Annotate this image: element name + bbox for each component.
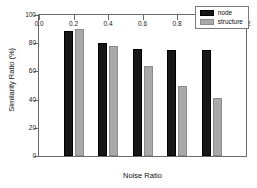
legend-label-structure: structure — [218, 19, 243, 26]
bar-structure-0.2 — [75, 29, 84, 156]
x-tick-label: 0.4 — [103, 21, 112, 28]
y-tick-label: 60 — [29, 68, 36, 75]
bar-structure-0.8 — [178, 86, 187, 157]
x-axis-title: Noise Ratio — [38, 172, 247, 180]
bar-structure-0.6 — [144, 66, 153, 156]
bar-node-0.4 — [98, 43, 107, 156]
x-tick-label: 0.2 — [69, 21, 78, 28]
bar-node-0.6 — [133, 49, 142, 156]
legend: node structure — [195, 6, 249, 29]
x-tick-label: 0.0 — [34, 21, 43, 28]
bar-node-0.2 — [64, 31, 73, 156]
plot-area: 0204060801000.00.20.40.60.81.01.2 — [38, 14, 247, 157]
bar-chart: 0204060801000.00.20.40.60.81.01.2 Simila… — [0, 0, 257, 188]
node-swatch-icon — [200, 10, 214, 16]
structure-swatch-icon — [200, 19, 214, 25]
bar-node-0.8 — [167, 50, 176, 156]
x-tick-label: 0.6 — [138, 21, 147, 28]
y-tick-label: 20 — [29, 125, 36, 132]
legend-label-node: node — [218, 10, 232, 17]
y-tick-label: 40 — [29, 96, 36, 103]
legend-item-structure: structure — [200, 19, 243, 26]
y-tick-label: 0 — [32, 153, 36, 160]
y-tick-label: 80 — [29, 40, 36, 47]
x-tick-label: 0.8 — [172, 21, 181, 28]
bar-node-1 — [202, 50, 211, 156]
y-tick-label: 100 — [25, 12, 36, 19]
bar-structure-0.4 — [109, 46, 118, 156]
legend-item-node: node — [200, 10, 243, 17]
bar-structure-1 — [213, 98, 222, 156]
y-axis-title: Similarity Ratio (%) — [8, 20, 16, 140]
